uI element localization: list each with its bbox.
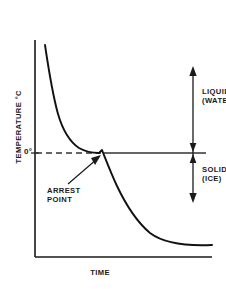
arrest-point-label: ARREST POINT [47,186,81,205]
zero-tick-label: 0° [24,147,32,157]
solid-phase-label-line2: (ICE) [202,174,226,183]
solid-phase-label-line1: SOLID [202,165,226,174]
plot-area [0,0,226,289]
cooling-curve [45,45,212,245]
liquid-phase-label: LIQUID (WATER) [202,87,226,106]
y-axis-title: TEMPERATURE °C [14,72,23,182]
liquid-phase-label-line1: LIQUID [202,87,226,96]
arrest-point-arrow [68,155,101,184]
liquid-phase-label-line2: (WATER) [202,96,226,105]
arrest-point-label-line1: ARREST [47,186,81,195]
cooling-curve-figure: TEMPERATURE °C TIME 0° LIQUID (WATER) SO… [0,0,226,289]
x-axis-title: TIME [90,268,110,277]
phase-range-arrow [189,66,196,203]
solid-phase-label: SOLID (ICE) [202,165,226,184]
arrest-point-label-line2: POINT [47,195,81,204]
